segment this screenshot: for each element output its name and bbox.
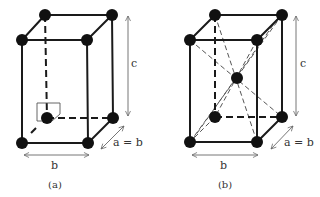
- panel-a-caption: (a): [48, 179, 62, 190]
- atom-bottom-front-right: [251, 136, 263, 148]
- atom-bottom-back-left: [209, 111, 221, 123]
- panel-b-caption: (b): [218, 179, 232, 190]
- atom-bottom-back-right: [276, 111, 288, 123]
- c-label: c: [300, 57, 306, 70]
- atom-top-front-left: [16, 34, 28, 46]
- a-equals-b-label: a = b: [284, 136, 314, 149]
- atom-bottom-front-left: [184, 136, 196, 148]
- atom-top-front-right: [251, 34, 263, 46]
- front-right-vertical-edge: [87, 40, 88, 143]
- atom-top-front-right: [81, 34, 93, 46]
- atom-top-back-right: [106, 9, 118, 21]
- b-label: b: [220, 159, 227, 172]
- back-right-vertical-edge: [112, 15, 113, 118]
- atom-body-center: [231, 72, 243, 84]
- atom-bottom-back-right: [107, 112, 119, 124]
- hidden-bottom-left-edge-stub: [30, 128, 36, 134]
- crystal-structure-figure: c b a = b (a): [0, 0, 320, 197]
- a-equals-b-label: a = b: [113, 136, 143, 149]
- atom-bottom-front-right: [82, 137, 94, 149]
- atom-top-back-right: [276, 9, 288, 21]
- c-label: c: [131, 57, 137, 70]
- panel-a: c b a = b (a): [16, 9, 143, 190]
- panel-b: c b a = b (b): [184, 9, 314, 190]
- atom-bottom-back-left: [41, 112, 53, 124]
- atom-bottom-front-left: [16, 137, 28, 149]
- b-label: b: [51, 159, 58, 172]
- atom-top-back-left: [209, 9, 221, 21]
- atom-top-back-left: [39, 9, 51, 21]
- atom-top-front-left: [184, 34, 196, 46]
